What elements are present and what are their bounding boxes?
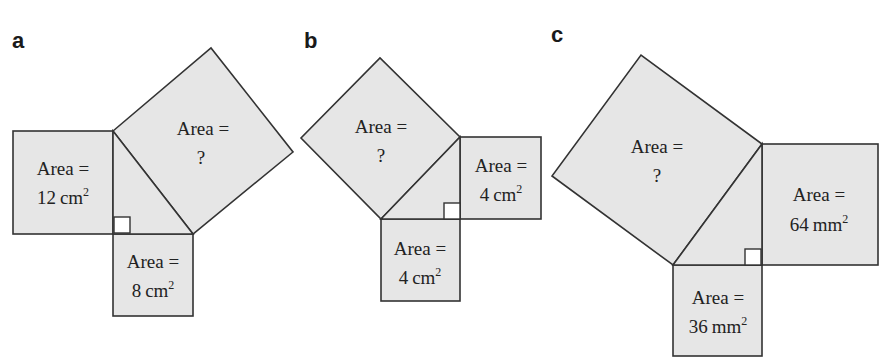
panel-label-b: b <box>304 28 317 53</box>
panel-label-c: c <box>551 22 563 47</box>
bottom-area-value-a: 8cm2 <box>132 278 175 301</box>
area-label-line1: Area = <box>177 118 229 139</box>
bottom-area-value-c: 36mm2 <box>689 314 748 337</box>
hypotenuse-area-label-c: Area = <box>631 136 683 157</box>
leg-square-right-b <box>460 137 541 219</box>
right-area-value-c: 64mm2 <box>790 212 849 235</box>
leg-square-left-a <box>13 131 113 234</box>
hypotenuse-area-value-c: ? <box>653 165 661 186</box>
leg-square-bottom-b <box>381 219 460 301</box>
hypotenuse-area-value-a: ? <box>197 147 205 168</box>
leg-square-bottom-c <box>673 265 762 356</box>
hypotenuse-area-value-b: ? <box>377 145 385 166</box>
bottom-area-label-b: Area = <box>394 238 446 259</box>
right-area-label-b: Area = <box>475 155 527 176</box>
right-area-value-b: 4cm2 <box>480 182 523 205</box>
leg-square-bottom-a <box>113 234 193 316</box>
hypotenuse-area-label-b: Area = <box>355 116 407 137</box>
bottom-area-value-b: 4cm2 <box>399 265 442 288</box>
left-area-value-a: 12cm2 <box>37 185 89 208</box>
panel-b: b Area = ? Area = 4cm2 Area = 4cm2 <box>301 28 541 301</box>
right-area-label-c: Area = <box>793 184 845 205</box>
bottom-area-label-a: Area = <box>127 251 179 272</box>
pythagorean-figure: a Area = ? Area = 12cm2 Area = 8cm2 b <box>0 0 891 364</box>
right-angle-marker-a <box>114 217 130 233</box>
panel-c: c Area = ? Area = 64mm2 Area = 36mm2 <box>551 22 878 356</box>
right-angle-marker-b <box>444 203 460 219</box>
panel-label-a: a <box>12 28 25 53</box>
right-angle-marker-c <box>745 249 761 265</box>
panel-a: a Area = ? Area = 12cm2 Area = 8cm2 <box>12 28 293 316</box>
bottom-area-label-c: Area = <box>692 287 744 308</box>
hypotenuse-area-label-a: Area = <box>177 118 229 139</box>
left-area-label-a: Area = <box>37 158 89 179</box>
